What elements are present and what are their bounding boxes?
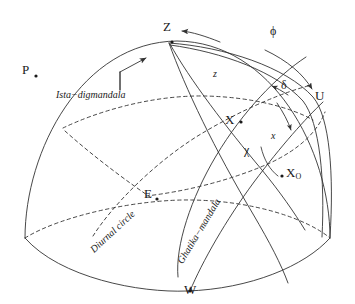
point-dot-X (239, 120, 242, 123)
angle-label-z: z (213, 69, 217, 79)
point-dot-E (155, 197, 158, 200)
horizon-back-arc (25, 200, 330, 238)
angle-label-delta: δ (281, 79, 287, 91)
angle-label-phi: ϕ (270, 25, 276, 37)
point-label-Z: Z (163, 20, 171, 33)
point-dot-Z (170, 40, 173, 43)
curve-label-ista-digmandala: Ista−digmandala (56, 90, 126, 100)
point-label-E: E (144, 187, 152, 200)
point-label-X0: XO (286, 166, 301, 181)
point-label-W: W (184, 283, 196, 296)
horizon-hemisphere-outline (25, 41, 330, 238)
point-label-U: U (315, 89, 324, 102)
point-label-X0-subscript: O (295, 172, 301, 181)
z-arc-arrow (182, 31, 220, 42)
ista-companion-circle (170, 44, 305, 230)
point-label-X: X (225, 113, 234, 126)
ista-leader-arrow (120, 58, 146, 90)
figure-canvas: Z P U X XO E W ϕ z δ x χ Ista−digmandala… (0, 0, 355, 304)
point-dot-P (34, 74, 37, 77)
point-label-P: P (22, 63, 29, 76)
polar-dashed-circle-upper (63, 96, 313, 128)
polar-dashed-circle (65, 131, 150, 197)
prime-vertical-outer-arc (169, 43, 331, 237)
angle-label-chi: χ (244, 144, 249, 156)
point-dot-X0 (280, 174, 283, 177)
angle-label-x: x (271, 131, 275, 141)
point-label-X0-main: X (286, 165, 295, 180)
